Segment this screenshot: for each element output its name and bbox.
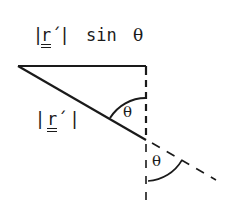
theta-symbol: θ [133,25,143,45]
sin-theta-triangle-diagram: |r´| sin θ |r´| θ θ [0,0,226,221]
sin-function: sin [86,25,117,45]
hypotenuse-label: |r´| [37,110,78,128]
abs-bar-left: | [37,108,43,129]
lower-angle-label: θ [152,154,161,169]
hypotenuse-extension-dashed [152,143,216,180]
vector-r: r [47,111,57,128]
prime-mark: ´ [51,25,61,45]
abs-bar-right: | [62,24,68,45]
abs-bar-right: | [72,108,78,129]
opposite-side-label: |r´| sin θ [35,26,143,44]
vector-r: r [41,27,51,44]
upper-angle-label: θ [123,105,132,120]
prime-mark: ´ [57,109,67,129]
